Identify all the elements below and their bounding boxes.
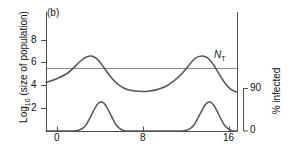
y-tick-label-2: 2 [31, 103, 37, 113]
x-tick-label-8: 8 [140, 133, 146, 143]
x-tick-label-0: 0 [54, 133, 60, 143]
y2-tick-label-0: 0 [250, 125, 256, 135]
y-tick-label-4: 4 [31, 80, 37, 90]
y-tick-label-8: 8 [31, 35, 37, 45]
curve-population-size [46, 56, 237, 92]
threshold-subscript: T [221, 55, 225, 62]
y2-axis-title: % infected [266, 54, 284, 128]
y-tick-label-6: 6 [31, 57, 37, 67]
y2-axis-title-text: % infected [271, 68, 282, 115]
curve-percent-infected [46, 102, 237, 131]
threshold-label-nt: NT [214, 50, 226, 62]
y-axis-title-sub: 10 [24, 98, 31, 106]
right-axis-bracket [244, 89, 249, 132]
y2-tick-label-90: 90 [250, 83, 261, 93]
panel-label: (b) [47, 8, 59, 18]
y-axis-title-rest: (size of population) [18, 11, 29, 98]
figure-panel-b: (b) 8 6 4 2 0 8 16 90 0 NT Log10 (size o… [0, 0, 297, 153]
y-axis-title-main: Log [18, 106, 29, 123]
y-axis-title: Log10 (size of population) [13, 7, 31, 127]
x-tick-label-16: 16 [223, 133, 234, 143]
